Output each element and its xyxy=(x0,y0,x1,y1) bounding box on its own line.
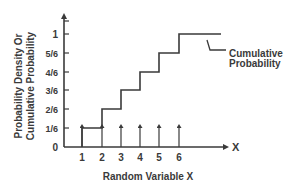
pmf-impulses xyxy=(82,126,179,147)
x-tick-1: 1 xyxy=(79,152,85,163)
x-tick-labels: 1 2 3 4 5 6 xyxy=(79,152,182,163)
y-tick-4-6: 4/6 xyxy=(45,68,58,78)
y-tick-0: 0 xyxy=(52,142,58,153)
y-tick-labels: 0 1/6 2/6 3/6 4/6 5/6 1 xyxy=(45,29,58,153)
y-axis-title-line2: Cumulative Probability xyxy=(25,31,36,140)
y-tick-1-6: 1/6 xyxy=(45,124,58,134)
x-tick-6: 6 xyxy=(176,152,182,163)
x-axis-end-label: X xyxy=(232,141,240,153)
cdf-step-curve xyxy=(82,34,221,147)
y-axis-title-line1: Probability Density Or xyxy=(13,33,24,138)
x-tick-3: 3 xyxy=(118,152,124,163)
annotation-leader xyxy=(207,40,226,50)
y-tick-2-6: 2/6 xyxy=(45,105,58,115)
x-axis-title: Random Variable X xyxy=(103,171,194,182)
x-tick-2: 2 xyxy=(99,152,105,163)
x-tick-4: 4 xyxy=(137,152,143,163)
annotation-line2: Probability xyxy=(229,58,281,69)
x-tick-5: 5 xyxy=(156,152,162,163)
y-tick-3-6: 3/6 xyxy=(45,86,58,96)
y-tick-5-6: 5/6 xyxy=(45,49,58,59)
cdf-diagram: 0 1/6 2/6 3/6 4/6 5/6 1 1 2 3 4 5 6 X Ra… xyxy=(0,0,289,186)
y-tick-1: 1 xyxy=(52,29,58,40)
